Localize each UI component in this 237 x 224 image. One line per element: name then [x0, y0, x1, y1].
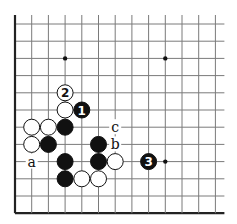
black-stone: [40, 136, 56, 152]
stones: 213: [24, 85, 157, 187]
white-stone: [91, 171, 107, 187]
move-number: 2: [61, 86, 69, 100]
black-stone: [57, 171, 73, 187]
black-stone: [57, 119, 73, 135]
white-stone: [24, 119, 40, 135]
white-stone: [74, 171, 90, 187]
move-number: 1: [78, 104, 86, 118]
white-stone: [57, 102, 73, 118]
black-stone: 3: [141, 154, 157, 170]
black-stone: [57, 154, 73, 170]
white-stone: 2: [57, 85, 73, 101]
board-grid: [15, 15, 224, 213]
white-stone: [107, 154, 123, 170]
letter-marker-c: c: [111, 119, 119, 135]
black-stone: 1: [74, 102, 90, 118]
go-board-diagram: abc 213: [0, 0, 237, 224]
star-point: [63, 56, 67, 60]
star-point: [163, 159, 167, 163]
black-stone: [91, 154, 107, 170]
move-number: 3: [144, 155, 152, 169]
letter-marker-b: b: [111, 136, 120, 152]
white-stone: [40, 119, 56, 135]
letter-marker-a: a: [28, 154, 36, 170]
white-stone: [24, 136, 40, 152]
black-stone: [91, 136, 107, 152]
star-point: [163, 56, 167, 60]
